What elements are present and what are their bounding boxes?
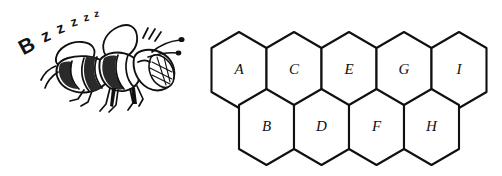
- cell-label-e: E: [343, 61, 353, 77]
- cell-label-g: G: [399, 61, 410, 77]
- honeycomb-cell-d[interactable]: D: [294, 89, 349, 165]
- cell-label-a: A: [233, 61, 244, 77]
- honeycomb-grid: A C E G I B: [0, 0, 502, 176]
- cell-label-i: I: [456, 61, 463, 77]
- honeycomb-cell-f[interactable]: F: [349, 89, 404, 165]
- cell-label-d: D: [315, 118, 327, 134]
- cell-label-c: C: [289, 61, 300, 77]
- cell-label-h: H: [425, 118, 438, 134]
- figure-canvas: B z z z z z A C E G: [0, 0, 502, 176]
- honeycomb-cell-b[interactable]: B: [239, 89, 294, 165]
- honeycomb-cell-h[interactable]: H: [404, 89, 459, 165]
- cell-label-b: B: [262, 118, 271, 134]
- cell-label-f: F: [371, 118, 382, 134]
